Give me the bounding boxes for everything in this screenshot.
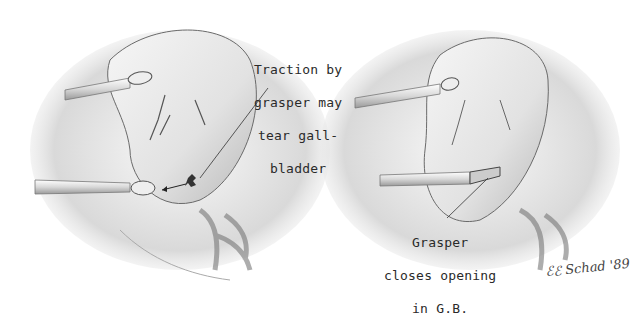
annotation-line: tear gall- — [254, 130, 342, 141]
annotation-line: closes opening — [384, 270, 496, 281]
left-lower-grasper — [35, 180, 155, 195]
left-annotation: Traction by grasper may tear gall- bladd… — [254, 42, 342, 185]
right-annotation: Grasper closes opening in G.B. — [384, 215, 496, 317]
annotation-line: grasper may — [254, 97, 342, 108]
annotation-line: in G.B. — [384, 303, 496, 314]
annotation-line: bladder — [254, 163, 342, 174]
annotation-line: Traction by — [254, 64, 342, 75]
annotation-line: Grasper — [384, 237, 496, 248]
